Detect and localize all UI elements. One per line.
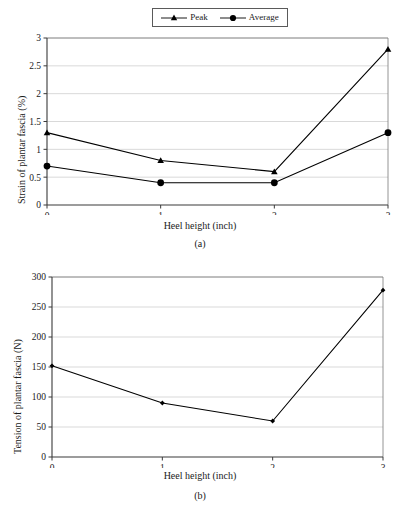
x-tick-label: 0 xyxy=(50,463,55,468)
strain-line-chart: 00.511.522.530123 xyxy=(0,30,400,215)
y-tick-label: 1.5 xyxy=(29,117,41,127)
figure-container: Peak Average 00.511.522.530123 Strain of… xyxy=(0,0,400,514)
legend-label-average: Average xyxy=(249,13,279,22)
x-tick-label: 3 xyxy=(386,211,391,215)
y-tick-label: 2.5 xyxy=(29,61,41,71)
x-axis-title-a: Heel height (inch) xyxy=(0,220,400,231)
data-point-triangle xyxy=(44,129,51,135)
data-point-circle xyxy=(44,163,51,170)
series-line-average xyxy=(47,133,388,183)
y-tick-label: 0 xyxy=(36,200,41,210)
data-point-circle xyxy=(271,179,278,186)
data-point-diamond xyxy=(160,401,165,406)
y-tick-label: 1 xyxy=(36,145,41,155)
legend-label-peak: Peak xyxy=(190,13,208,22)
y-tick-label: 150 xyxy=(32,362,47,372)
y-tick-label: 100 xyxy=(32,392,47,402)
x-tick-label: 2 xyxy=(270,463,275,468)
chart-panel-b: 0501001502002503000123 Tension of planta… xyxy=(0,268,400,514)
series-line-peak xyxy=(47,49,388,171)
y-axis-title-b: Tension of plantar fascia (N) xyxy=(12,339,23,454)
circle-marker-icon xyxy=(220,13,246,23)
x-tick-label: 1 xyxy=(160,463,165,468)
x-axis-title-b: Heel height (inch) xyxy=(0,470,400,481)
panel-caption-a: (a) xyxy=(0,238,400,249)
tension-line-chart: 0501001502002503000123 xyxy=(0,268,400,468)
x-tick-label: 1 xyxy=(158,211,163,215)
legend-item-average: Average xyxy=(220,13,279,23)
y-axis-title-a: Strain of plantar fascia (%) xyxy=(16,96,27,204)
series-line-tension xyxy=(52,290,383,421)
triangle-marker-icon xyxy=(161,13,187,23)
x-tick-label: 0 xyxy=(45,211,50,215)
chart-panel-a: 00.511.522.530123 Strain of plantar fasc… xyxy=(0,30,400,260)
legend-item-peak: Peak xyxy=(161,13,208,23)
x-tick-label: 3 xyxy=(381,463,386,468)
y-tick-label: 250 xyxy=(32,302,47,312)
y-tick-label: 0 xyxy=(41,452,46,462)
x-tick-label: 2 xyxy=(272,211,277,215)
y-tick-label: 50 xyxy=(37,422,47,432)
y-tick-label: 300 xyxy=(32,272,47,282)
y-tick-label: 3 xyxy=(36,33,41,43)
y-tick-label: 0.5 xyxy=(29,173,41,183)
data-point-circle xyxy=(157,179,164,186)
data-point-circle xyxy=(385,129,392,136)
y-tick-label: 2 xyxy=(36,89,41,99)
chart-legend: Peak Average xyxy=(152,8,288,27)
panel-caption-b: (b) xyxy=(0,490,400,501)
y-tick-label: 200 xyxy=(32,332,47,342)
data-point-triangle xyxy=(385,46,392,52)
